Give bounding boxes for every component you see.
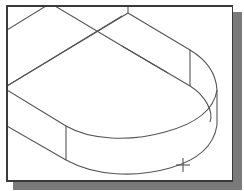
top-face-lower-curve: [7, 90, 217, 138]
top-left-edge: [7, 6, 46, 30]
top-face-left-outline: [7, 13, 128, 86]
bottom-face-curve: [7, 125, 217, 174]
inner-diagonal-edge: [122, 46, 211, 122]
top-face-outline: [128, 13, 217, 125]
isometric-drawing[interactable]: [0, 0, 244, 191]
crosshair-icon: [176, 158, 190, 172]
